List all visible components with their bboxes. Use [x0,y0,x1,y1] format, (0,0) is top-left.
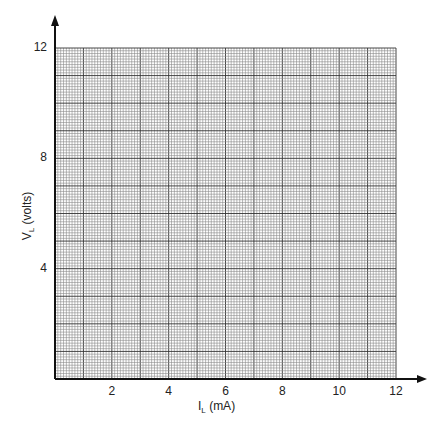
y-tick-label: 12 [25,40,47,54]
x-axis-title-unit: (mA) [206,399,235,413]
y-axis-title-subscript: L [27,228,36,232]
y-axis-title: VL (volts) [20,176,36,256]
y-tick-label: 8 [25,150,47,164]
graph-paper-chart [0,0,443,429]
x-tick-label: 4 [157,384,181,398]
x-tick-label: 8 [270,384,294,398]
x-axis-title: IL (mA) [198,399,235,415]
x-tick-label: 2 [100,384,124,398]
y-tick-label: 4 [25,261,47,275]
y-axis-title-unit: (volts) [20,192,34,228]
x-tick-label: 12 [384,384,408,398]
y-axis-arrow-icon [51,15,59,26]
x-axis-arrow-icon [417,375,427,383]
y-axis-title-main: V [20,232,34,240]
x-tick-label: 10 [327,384,351,398]
x-tick-label: 6 [214,384,238,398]
